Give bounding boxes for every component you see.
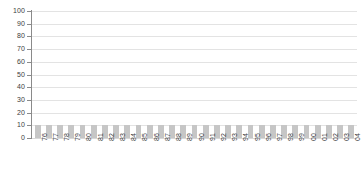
y-axis-tick-label: 60 [3, 58, 25, 65]
x-axis-tick-label: 80 [85, 133, 92, 141]
x-axis-labels: 7677787980818283848586878889909192939495… [32, 139, 357, 175]
x-axis-tick-label: 97 [276, 133, 283, 141]
x-axis-tick-label: 01 [321, 133, 328, 141]
bar-series [32, 11, 357, 138]
x-axis-tick-label: 77 [52, 133, 59, 141]
y-axis-tick-label: 10 [3, 121, 25, 128]
x-axis-tick-label: 03 [343, 133, 350, 141]
y-axis-tick-label: 100 [3, 7, 25, 14]
x-axis-tick-label: 91 [209, 133, 216, 141]
x-axis-tick-label: 99 [298, 133, 305, 141]
x-axis-tick-label: 88 [175, 133, 182, 141]
bar [35, 125, 41, 138]
y-axis-tick-label: 80 [3, 32, 25, 39]
x-axis-tick-label: 85 [141, 133, 148, 141]
y-axis-tick-label: 30 [3, 96, 25, 103]
x-axis-tick-label: 00 [310, 133, 317, 141]
x-axis-tick-label: 81 [97, 133, 104, 141]
x-axis-tick-label: 84 [130, 133, 137, 141]
x-axis-tick-label: 89 [186, 133, 193, 141]
x-axis-tick-label: 93 [231, 133, 238, 141]
y-axis-tick-label: 0 [3, 134, 25, 141]
x-axis-tick-label: 96 [265, 133, 272, 141]
x-axis-tick-label: 76 [41, 133, 48, 141]
y-axis-tick-label: 20 [3, 109, 25, 116]
x-axis-tick-label: 87 [164, 133, 171, 141]
x-axis-tick-label: 79 [74, 133, 81, 141]
x-axis-tick-label: 94 [242, 133, 249, 141]
x-axis-tick-label: 02 [332, 133, 339, 141]
x-axis-tick-label: 78 [63, 133, 70, 141]
x-axis-tick-label: 95 [254, 133, 261, 141]
y-axis-tick-label: 70 [3, 45, 25, 52]
x-axis-tick-label: 92 [220, 133, 227, 141]
x-axis-tick-label: 98 [287, 133, 294, 141]
x-axis-tick-label: 83 [119, 133, 126, 141]
bar-chart: 1009080706050403020100 76777879808182838… [0, 0, 363, 175]
y-axis-tick-label: 90 [3, 20, 25, 27]
x-axis-tick-label: 82 [108, 133, 115, 141]
x-axis-tick-label: 86 [153, 133, 160, 141]
y-axis-tick-label: 50 [3, 71, 25, 78]
x-axis-tick-label: 90 [198, 133, 205, 141]
y-axis-tick-label: 40 [3, 83, 25, 90]
y-axis-labels: 1009080706050403020100 [0, 0, 25, 175]
x-axis-tick-label: 04 [354, 133, 361, 141]
